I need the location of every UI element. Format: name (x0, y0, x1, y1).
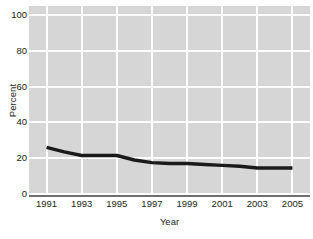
x-tick-label: 1991 (36, 198, 57, 209)
y-tick-label: 60 (1, 82, 27, 92)
x-axis-title: Year (29, 216, 310, 227)
x-axis-tick-labels: 19911993199519971999200120032005 (29, 198, 310, 214)
x-tick-label: 1993 (71, 198, 92, 209)
x-axis-line (29, 195, 310, 197)
plot-area (29, 6, 310, 194)
x-tick-label: 2003 (247, 198, 268, 209)
series-polyline (47, 147, 293, 168)
y-tick-label: 20 (1, 153, 27, 163)
x-tick-label: 1999 (176, 198, 197, 209)
data-series-line (29, 6, 310, 194)
line-chart: Percent 100806040200 1991199319951997199… (0, 0, 313, 239)
x-tick-label: 1995 (106, 198, 127, 209)
y-tick-label: 80 (1, 46, 27, 56)
y-tick-label: 100 (1, 10, 27, 20)
y-axis-tick-labels: 100806040200 (0, 0, 27, 200)
y-tick-label: 0 (1, 189, 27, 199)
x-tick-label: 2005 (282, 198, 303, 209)
x-tick-label: 2001 (212, 198, 233, 209)
x-tick-label: 1997 (141, 198, 162, 209)
y-tick-label: 40 (1, 117, 27, 127)
